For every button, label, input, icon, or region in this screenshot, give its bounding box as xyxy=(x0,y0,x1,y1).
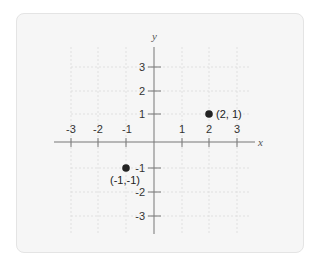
y-tick-label: -3 xyxy=(135,210,145,222)
point-label: (-1,-1) xyxy=(110,174,140,186)
y-tick-label: 3 xyxy=(139,61,145,73)
point-2-1 xyxy=(205,110,213,118)
coordinate-plane: -3 -2 -1 1 2 3 3 2 1 -1 -2 -3 x y (2, 1)… xyxy=(0,0,320,266)
x-axis-label: x xyxy=(257,136,263,148)
y-axis-label: y xyxy=(151,30,157,42)
x-tick-label: -1 xyxy=(122,123,132,135)
y-tick-label: -1 xyxy=(135,162,145,174)
point-label: (2, 1) xyxy=(216,108,242,120)
y-tick-label: 1 xyxy=(139,108,145,120)
x-tick-label: -2 xyxy=(93,123,103,135)
x-tick-label: -3 xyxy=(66,123,76,135)
y-tick-label: 2 xyxy=(139,85,145,97)
x-tick-label: 2 xyxy=(206,123,212,135)
y-tick-label: -2 xyxy=(135,186,145,198)
x-tick-label: 3 xyxy=(234,123,240,135)
point-neg1-neg1 xyxy=(122,164,130,172)
x-tick-label: 1 xyxy=(179,123,185,135)
